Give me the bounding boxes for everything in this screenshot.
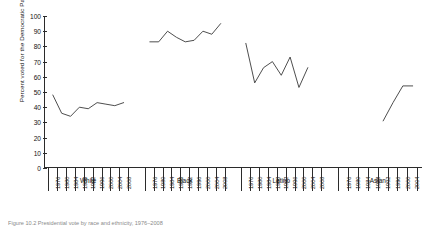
panel-black: 197619801984198819921996200020042008	[141, 16, 230, 168]
group-label-latino: Latino	[237, 177, 326, 184]
y-tick-label: 50	[34, 89, 41, 96]
figure-caption: Figure 10.2 Presidential vote by race an…	[8, 220, 428, 226]
figure-container: Percent voted for the Democratic Party 0…	[0, 0, 436, 227]
y-tick-label: 40	[34, 104, 41, 111]
y-tick-label: 100	[30, 13, 41, 20]
y-tick-label: 70	[34, 58, 41, 65]
panel-white: 197619801984198819921996200020042008	[44, 16, 133, 168]
y-tick-label: 20	[34, 134, 41, 141]
y-tick-label: 10	[34, 149, 41, 156]
y-tick-label: 80	[34, 43, 41, 50]
y-axis-label-wrapper: Percent voted for the Democratic Party	[0, 18, 14, 168]
y-tick-label: 90	[34, 28, 41, 35]
y-tick-label: 30	[34, 119, 41, 126]
series-line-white	[44, 16, 133, 168]
plot-area: 0102030405060708090100 19761980198419881…	[44, 16, 422, 168]
panel-asian: 19761980198419881992199620002004	[334, 16, 423, 168]
group-label-black: Black	[141, 177, 230, 184]
series-line-latino	[237, 16, 326, 168]
group-label-asian: Asian	[334, 177, 423, 184]
series-line-asian	[334, 16, 423, 168]
group-label-white: White	[44, 177, 133, 184]
series-line-black	[141, 16, 230, 168]
y-tick-label: 0	[37, 165, 41, 172]
y-tick-label: 60	[34, 73, 41, 80]
panel-latino: 197619801984198819921996200020042008	[237, 16, 326, 168]
y-axis-label: Percent voted for the Democratic Party	[14, 0, 28, 122]
